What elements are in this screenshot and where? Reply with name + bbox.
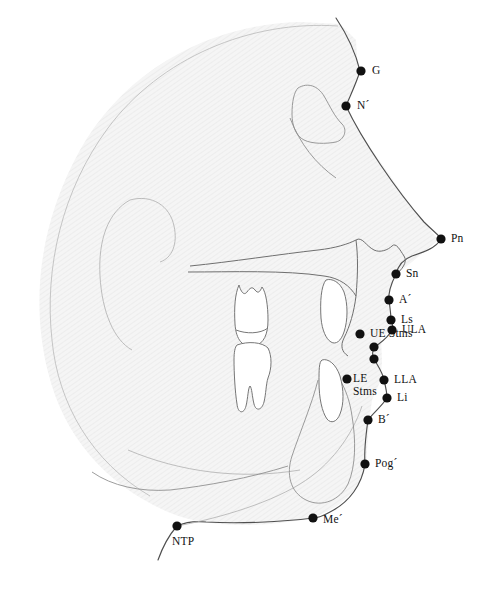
landmark-label-line: Pn [451, 232, 464, 245]
landmark-label-soft-tissue-nasion: N´ [357, 99, 370, 112]
landmark-dot-lower-embrasure-stomion-inferius[interactable] [342, 374, 351, 383]
landmark-dot-glabella[interactable] [356, 66, 365, 75]
cephalometric-tracing [0, 0, 489, 591]
landmark-dot-labrale-superius[interactable] [386, 315, 395, 324]
upper-molar [235, 285, 268, 346]
landmark-label-line: NTP [172, 535, 194, 548]
landmark-label-line: G [372, 64, 381, 77]
landmark-label-line: A´ [399, 293, 412, 306]
landmark-label-line: UE Stms [370, 327, 413, 340]
landmark-label-line: B´ [378, 413, 390, 426]
landmark-dot-labrale-inferius[interactable] [382, 393, 391, 402]
landmark-label-line: LE [353, 372, 377, 385]
skull-soft-tissue-fill [39, 22, 438, 525]
skull-shaded-mass [39, 22, 438, 525]
landmark-dot-stomion-upper-unlabeled[interactable] [369, 342, 378, 351]
landmark-dot-neck-throat-point[interactable] [172, 521, 181, 530]
landmark-label-glabella: G [372, 64, 381, 77]
landmark-label-lower-lip-anterior: LLA [394, 373, 417, 386]
landmark-label-labrale-inferius: Li [397, 391, 408, 404]
landmark-label-upper-embrasure-stomion-superius: UE Stms [370, 327, 413, 340]
landmark-dot-soft-tissue-menton[interactable] [308, 513, 317, 522]
landmark-label-line: Sn [406, 267, 419, 280]
landmark-label-pronasale: Pn [451, 232, 464, 245]
landmark-dot-subnasale[interactable] [391, 269, 400, 278]
cephalometric-figure: GN´PnSnA´LsULAUE StmsLEStmsLLALiB´Pog´Me… [0, 0, 489, 591]
landmark-label-soft-tissue-menton: Me´ [323, 513, 343, 526]
landmark-dot-soft-tissue-b-point[interactable] [363, 415, 372, 424]
landmark-dot-soft-tissue-a-point[interactable] [384, 295, 393, 304]
landmark-dot-soft-tissue-pogonion[interactable] [360, 459, 369, 468]
landmark-label-line: N´ [357, 99, 370, 112]
landmark-label-soft-tissue-a-point: A´ [399, 293, 412, 306]
landmark-label-soft-tissue-b-point: B´ [378, 413, 390, 426]
landmark-dot-upper-embrasure-stomion-superius[interactable] [355, 329, 364, 338]
landmark-label-line: Stms [353, 385, 377, 398]
landmark-label-soft-tissue-pogonion: Pog´ [375, 457, 398, 470]
landmark-label-line: LLA [394, 373, 417, 386]
landmark-dot-lower-lip-anterior[interactable] [379, 375, 388, 384]
landmark-label-line: Me´ [323, 513, 343, 526]
upper-incisor [321, 280, 347, 343]
landmark-label-neck-throat-point: NTP [172, 535, 194, 548]
landmark-label-lower-embrasure-stomion-inferius: LEStms [353, 372, 377, 397]
landmark-label-line: Pog´ [375, 457, 398, 470]
landmark-label-line: Li [397, 391, 408, 404]
landmark-dot-soft-tissue-nasion[interactable] [341, 101, 350, 110]
landmark-dot-pronasale[interactable] [436, 234, 445, 243]
landmark-dot-stomion-lower-unlabeled[interactable] [369, 354, 378, 363]
landmark-label-subnasale: Sn [406, 267, 419, 280]
